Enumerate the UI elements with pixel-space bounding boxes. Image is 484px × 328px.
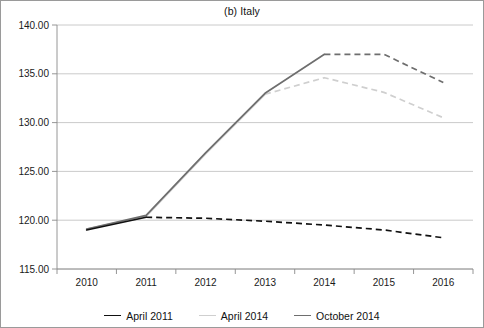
line-chart-plot: 115.00120.00125.00130.00135.00140.002010… <box>1 1 484 328</box>
series-dashed-segment <box>265 78 443 118</box>
legend-item-october-2014[interactable]: October 2014 <box>294 311 380 322</box>
x-tick-label: 2012 <box>194 277 217 288</box>
y-tick-label: 130.00 <box>18 117 49 128</box>
legend-label: October 2014 <box>316 311 380 322</box>
x-tick-label: 2010 <box>76 277 99 288</box>
x-tick-label: 2011 <box>135 277 157 288</box>
legend-swatch-icon <box>104 315 121 316</box>
series-solid-segment <box>87 54 325 229</box>
legend-swatch-icon <box>199 315 216 316</box>
legend-item-april-2011[interactable]: April 2011 <box>104 311 173 322</box>
series-solid-segment <box>87 217 146 230</box>
legend-swatch-icon <box>294 315 311 316</box>
series-solid-segment <box>87 94 265 229</box>
y-tick-label: 125.00 <box>18 166 49 177</box>
series-dashed-segment <box>324 54 443 82</box>
y-tick-label: 115.00 <box>19 264 49 275</box>
legend-label: April 2014 <box>221 311 268 322</box>
y-tick-label: 140.00 <box>18 20 49 31</box>
series-april-2014 <box>87 78 444 229</box>
x-tick-label: 2014 <box>313 277 336 288</box>
y-tick-label: 135.00 <box>18 68 49 79</box>
legend-label: April 2011 <box>126 311 173 322</box>
x-tick-label: 2016 <box>432 277 455 288</box>
legend-item-april-2014[interactable]: April 2014 <box>199 311 268 322</box>
x-tick-label: 2013 <box>254 277 277 288</box>
y-tick-label: 120.00 <box>18 215 49 226</box>
series-october-2014 <box>87 54 444 229</box>
chart-figure: (b) Italy 115.00120.00125.00130.00135.00… <box>0 0 484 328</box>
x-tick-label: 2015 <box>373 277 396 288</box>
chart-legend: April 2011April 2014October 2014 <box>1 311 483 322</box>
